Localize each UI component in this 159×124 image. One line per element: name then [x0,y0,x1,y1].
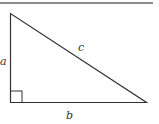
triangle [11,14,147,103]
label-side-c: c [78,41,84,54]
right-triangle-diagram: a b c [0,0,159,124]
right-angle-marker [11,91,23,103]
label-side-a: a [0,55,7,68]
label-side-b: b [66,109,73,122]
